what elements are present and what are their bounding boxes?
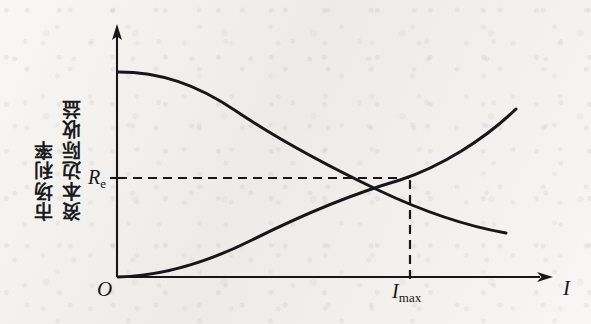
x-axis-label: I xyxy=(563,278,570,299)
x-axis-tick-label-base: I xyxy=(392,280,399,302)
x-axis-tick-label-imax: Imax xyxy=(392,281,421,304)
y-axis-caption-column-1: 资本边际收益 xyxy=(58,98,85,221)
curve-market-interest-rate xyxy=(118,109,516,277)
chart-plot-area xyxy=(0,0,591,324)
figure-canvas: 市场利率 资本边际收益 O Re Imax I xyxy=(0,0,591,324)
y-axis-tick-label-re: Re xyxy=(88,167,106,190)
origin-label: O xyxy=(97,279,112,300)
curve-marginal-return-on-capital xyxy=(118,72,506,233)
x-axis-tick-label-subscript: max xyxy=(399,290,422,305)
y-axis-tick-label-base: R xyxy=(88,166,100,188)
y-axis-tick-label-subscript: e xyxy=(100,176,106,191)
y-axis-caption: 市场利率 资本边际收益 xyxy=(30,98,85,221)
y-axis-caption-column-2: 市场利率 xyxy=(30,98,57,221)
